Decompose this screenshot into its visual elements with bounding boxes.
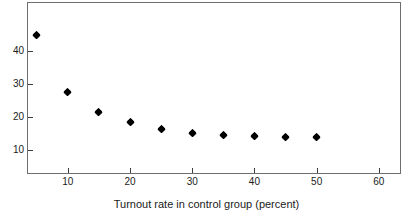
plot-frame: 10203040102030405060	[27, 2, 401, 174]
y-axis-tick-label: 20	[13, 112, 24, 122]
x-axis-tick-label: 40	[249, 177, 260, 187]
x-axis-tick-mark	[317, 168, 318, 173]
chart-figure: 10203040102030405060 Turnout rate in con…	[0, 0, 413, 216]
y-axis-tick-mark	[28, 150, 33, 151]
data-point-marker	[126, 118, 133, 125]
data-point-marker	[33, 31, 40, 38]
x-axis-tick-label: 50	[311, 177, 322, 187]
data-point-marker	[95, 108, 102, 115]
y-axis-tick-label: 40	[13, 46, 24, 56]
plot-area: 10203040102030405060	[28, 3, 400, 173]
data-point-marker	[64, 88, 71, 95]
x-axis-tick-mark	[254, 168, 255, 173]
data-point-marker	[189, 129, 196, 136]
x-axis-tick-mark	[68, 168, 69, 173]
y-axis-tick-label: 10	[13, 145, 24, 155]
y-axis-tick-mark	[28, 117, 33, 118]
x-axis-tick-mark	[379, 168, 380, 173]
data-point-marker	[313, 132, 320, 139]
x-axis-tick-label: 60	[373, 177, 384, 187]
x-axis-tick-label: 10	[62, 177, 73, 187]
data-point-marker	[251, 132, 258, 139]
data-point-marker	[220, 131, 227, 138]
data-point-marker	[282, 132, 289, 139]
x-axis-tick-label: 20	[124, 177, 135, 187]
x-axis-title: Turnout rate in control group (percent)	[0, 198, 413, 210]
data-point-marker	[158, 125, 165, 132]
y-axis-tick-mark	[28, 51, 33, 52]
y-axis-tick-label: 30	[13, 79, 24, 89]
y-axis-tick-mark	[28, 84, 33, 85]
x-axis-tick-mark	[192, 168, 193, 173]
x-axis-tick-label: 30	[187, 177, 198, 187]
x-axis-tick-mark	[130, 168, 131, 173]
